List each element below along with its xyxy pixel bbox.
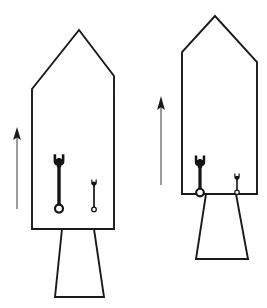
acceleration-arrow: [157, 96, 165, 185]
wrench-ring-icon: [55, 205, 63, 213]
wrench-ring-icon: [196, 189, 204, 197]
rocket-nozzle-outline: [55, 229, 104, 297]
left-rocket: [13, 30, 114, 297]
rocket-nozzle-outline: [196, 194, 248, 259]
right-rocket: [157, 16, 257, 259]
figure-canvas: Two rocket diagrams with suspended wrenc…: [0, 0, 267, 308]
rocket-body-outline: [182, 16, 257, 194]
wrench-ring-icon: [235, 190, 239, 194]
rocket-body-outline: [32, 30, 114, 229]
wrench-ring-icon: [92, 207, 97, 212]
acceleration-arrow: [13, 127, 21, 209]
